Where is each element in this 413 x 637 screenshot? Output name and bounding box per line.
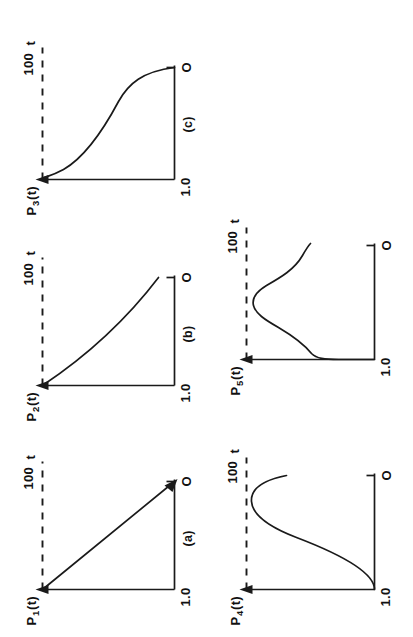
p4-y-tick-bottom: O [378,470,393,480]
curve-p3 [42,67,174,178]
p1-y-tick-top: 1.0 [177,587,192,606]
p4-y-axis-label: P4(t) [227,596,244,625]
p5-x-tick-100: 100 [224,230,239,253]
p5-y-axis-label: P5(t) [227,366,244,395]
y-axis-arrowhead [35,175,48,184]
figure-plate: P1(t) 1.0 O 100 t (a) P2(t) 1.0 O 100 t … [0,0,413,637]
curve-p5 [253,243,374,359]
curve-p2 [42,277,158,385]
p4-y-tick-top: 1.0 [377,587,392,606]
p2-y-axis-label: P2(t) [23,392,40,421]
p1-y-tick-bottom: O [178,476,193,486]
p3-x-tick-100: 100 [20,52,35,75]
curve-p4 [251,475,374,589]
p2-x-tick-100: 100 [20,262,35,285]
p5-x-axis-label: t [226,218,241,223]
p3-y-tick-top: 1.0 [177,177,192,196]
p2-x-axis-label: t [22,250,37,255]
p1-x-axis-label: t [22,454,37,459]
panel-p3: P3(t) 1.0 O 100 t (c) [22,29,212,209]
p3-y-tick-bottom: O [178,62,193,72]
p2-y-tick-bottom: O [178,272,193,282]
p1-x-tick-100: 100 [20,466,35,489]
y-axis-arrowhead [239,355,252,364]
curve-p1 [42,481,174,589]
p5-y-tick-top: 1.0 [377,357,392,376]
panel-p4: P4(t) 1.0 O 100 t [228,439,408,619]
p1-caption: (a) [180,530,194,546]
p3-caption: (c) [180,116,194,132]
p3-x-axis-label: t [22,40,37,45]
y-axis-arrowhead [35,381,48,390]
y-axis-arrowhead [239,585,252,594]
p2-y-tick-top: 1.0 [177,383,192,402]
p2-caption: (b) [180,325,194,342]
p4-x-tick-100: 100 [224,460,239,483]
panel-p1: P1(t) 1.0 O 100 t (a) [22,449,212,619]
p5-y-tick-bottom: O [378,240,393,250]
panel-p2: P2(t) 1.0 O 100 t (b) [22,245,212,415]
p1-y-axis-label: P1(t) [23,596,40,625]
p3-y-axis-label: P3(t) [23,186,40,215]
panel-p5: P5(t) 1.0 O 100 t [228,209,408,389]
p4-x-axis-label: t [226,448,241,453]
figure-root: P1(t) 1.0 O 100 t (a) P2(t) 1.0 O 100 t … [0,0,413,637]
